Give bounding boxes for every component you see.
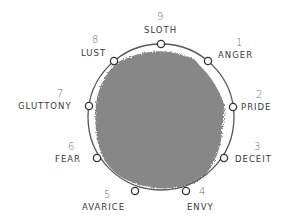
node-number-lust: 8 (92, 35, 98, 45)
node-label-deceit: DECEIT (235, 155, 272, 164)
node-label-sloth: SLOTH (144, 26, 177, 35)
node-marker-lust (110, 57, 117, 64)
node-number-pride: 2 (256, 90, 262, 100)
shaded-region (95, 51, 224, 188)
node-label-envy: ENVY (187, 203, 214, 212)
node-marker-deceit (220, 154, 227, 161)
node-number-envy: 4 (199, 187, 205, 197)
node-label-avarice: AVARICE (82, 203, 125, 212)
node-number-sloth: 9 (157, 12, 163, 22)
node-marker-fear (93, 154, 100, 161)
node-marker-avarice (131, 187, 138, 194)
enneagram-diagram: 9 SLOTH 1 ANGER 2 PRIDE 3 DECEIT 4 ENVY … (0, 0, 294, 224)
node-marker-sloth (157, 40, 164, 47)
node-label-fear: FEAR (55, 155, 81, 164)
node-number-gluttony: 7 (57, 89, 63, 99)
node-number-avarice: 5 (104, 190, 110, 200)
node-number-deceit: 3 (254, 142, 260, 152)
node-label-lust: LUST (81, 49, 106, 58)
node-label-gluttony: GLUTTONY (18, 102, 72, 111)
node-label-pride: PRIDE (241, 103, 271, 112)
node-number-anger: 1 (236, 38, 242, 48)
node-marker-pride (229, 103, 236, 110)
node-marker-anger (204, 57, 211, 64)
node-number-fear: 6 (68, 142, 74, 152)
node-label-anger: ANGER (218, 51, 253, 60)
node-marker-envy (182, 187, 189, 194)
node-marker-gluttony (85, 102, 92, 109)
